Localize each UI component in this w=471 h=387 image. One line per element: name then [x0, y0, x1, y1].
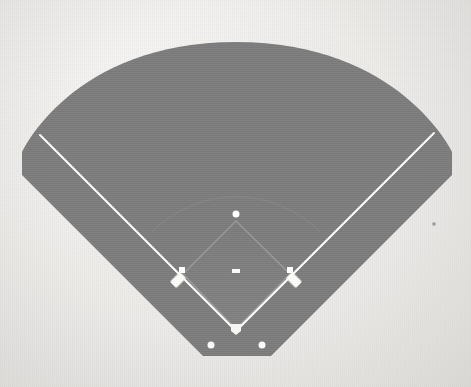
baseball-field-diagram: Baseball Field Diagram 1st Base 2nd Base… [0, 0, 471, 387]
base-marker-second-base [233, 211, 240, 218]
base-marker-third-base [179, 267, 185, 273]
pitchers-rubber [232, 269, 240, 273]
on-deck-circle-left [208, 342, 215, 349]
on-deck-circle-right [259, 342, 266, 349]
scan-speck-artifact [433, 223, 436, 226]
base-marker-first-base [287, 267, 293, 273]
field-graphic [0, 0, 471, 387]
